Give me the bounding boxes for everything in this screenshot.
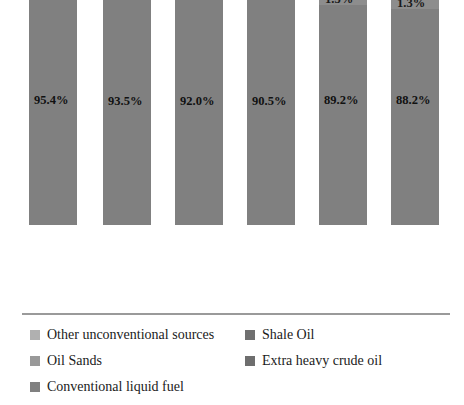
legend-item-shale-oil[interactable]: Shale Oil bbox=[245, 328, 315, 342]
bar-2-body-label: 93.5% bbox=[108, 95, 142, 108]
bar-3-body-label: 92.0% bbox=[180, 95, 214, 108]
legend-label-oil-sands: Oil Sands bbox=[47, 354, 102, 368]
legend-label-extra-heavy-crude-oil: Extra heavy crude oil bbox=[262, 354, 382, 368]
bar-1-segment-conventional[interactable]: 95.4% bbox=[29, 0, 77, 225]
legend-swatch-icon-oil-sands bbox=[30, 356, 40, 366]
bar-6-body-label: 88.2% bbox=[396, 94, 430, 107]
bar-2[interactable]: 2.5% 0.9% 93.5% bbox=[103, 0, 151, 225]
bar-4-segment-conventional[interactable]: 90.5% bbox=[247, 0, 295, 225]
bar-6-segment-conventional[interactable]: 88.2% bbox=[391, 9, 439, 225]
plot-area: 2.0% 1.8% 0.8% 95.4% 3.2% 2 bbox=[0, 0, 464, 316]
legend-label-other-unconventional-sources: Other unconventional sources bbox=[47, 328, 214, 342]
bar-6[interactable]: 4.3% 1.3% 88.2% bbox=[391, 0, 439, 225]
bar-5[interactable]: 3.8% 1.3% 89.2% bbox=[319, 0, 367, 225]
bar-4-body-label: 90.5% bbox=[252, 95, 286, 108]
bar-4[interactable]: 3.4% 1.3% 90.5% bbox=[247, 0, 295, 225]
bar-3[interactable]: 3.0% 1.1% 92.0% bbox=[175, 0, 223, 225]
legend-label-conventional-liquid-fuel: Conventional liquid fuel bbox=[47, 380, 184, 394]
legend-item-extra-heavy-crude-oil[interactable]: Extra heavy crude oil bbox=[245, 354, 382, 368]
legend-item-conventional-liquid-fuel[interactable]: Conventional liquid fuel bbox=[30, 380, 184, 394]
legend-swatch-icon-other-unconventional-sources bbox=[30, 330, 40, 340]
x-axis-line bbox=[22, 313, 450, 315]
bar-6-segment-extra-heavy[interactable]: 1.3% bbox=[391, 0, 439, 9]
bar-1[interactable]: 1.8% 0.8% 95.4% bbox=[29, 0, 77, 225]
stacked-bar-chart: 2.0% 1.8% 0.8% 95.4% 3.2% 2 bbox=[0, 0, 464, 405]
legend-label-shale-oil: Shale Oil bbox=[262, 328, 315, 342]
bar-2-segment-conventional[interactable]: 93.5% bbox=[103, 0, 151, 225]
legend-item-oil-sands[interactable]: Oil Sands bbox=[30, 354, 102, 368]
bar-5-body-label: 89.2% bbox=[324, 94, 358, 107]
legend-swatch-icon-shale-oil bbox=[245, 330, 255, 340]
bar-5-segment-conventional[interactable]: 89.2% bbox=[319, 5, 367, 225]
bar-1-body-label: 95.4% bbox=[34, 94, 68, 107]
chart-legend: Other unconventional sources Shale Oil O… bbox=[0, 322, 464, 405]
legend-swatch-icon-conventional-liquid-fuel bbox=[30, 382, 40, 392]
legend-swatch-icon-extra-heavy-crude-oil bbox=[245, 356, 255, 366]
bar-3-segment-conventional[interactable]: 92.0% bbox=[175, 0, 223, 225]
legend-item-other-unconventional-sources[interactable]: Other unconventional sources bbox=[30, 328, 214, 342]
